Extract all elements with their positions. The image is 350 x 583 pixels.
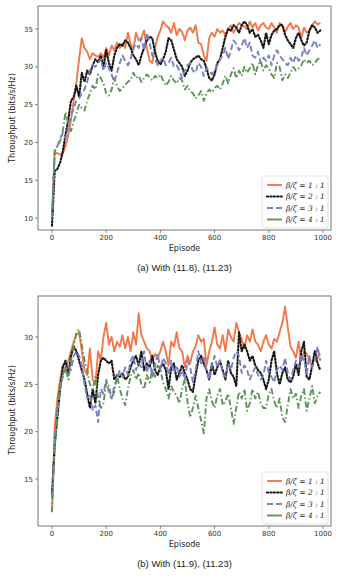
- x-tick-label: 600: [208, 234, 221, 242]
- x-tick-label: 600: [208, 530, 221, 538]
- y-axis-label: Throughput (bits/s/Hz): [8, 73, 17, 164]
- x-axis-label: Episode: [169, 540, 200, 549]
- legend-label: β/ζ = 1 : 1: [285, 477, 325, 486]
- y-tick-label: 30: [24, 63, 33, 71]
- legend: β/ζ = 1 : 1β/ζ = 2 : 1β/ζ = 3 : 1β/ζ = 4…: [262, 176, 328, 228]
- y-tick-label: 25: [24, 101, 33, 109]
- legend-label: β/ζ = 2 : 1: [285, 192, 325, 201]
- y-tick-label: 10: [24, 215, 33, 223]
- y-tick-label: 20: [24, 139, 33, 147]
- x-tick-label: 0: [50, 530, 54, 538]
- y-tick-label: 15: [24, 177, 33, 185]
- series-line-2: [52, 332, 320, 493]
- figure-caption: (a) With (11.8), (11.23): [137, 262, 232, 273]
- legend-label: β/ζ = 3 : 1: [285, 204, 325, 213]
- legend: β/ζ = 1 : 1β/ζ = 2 : 1β/ζ = 3 : 1β/ζ = 4…: [262, 472, 328, 524]
- chart-b: 1520253002004006008001000EpisodeThroughp…: [8, 296, 332, 569]
- legend-label: β/ζ = 4 : 1: [285, 511, 325, 520]
- legend-label: β/ζ = 1 : 1: [285, 181, 325, 190]
- y-tick-label: 20: [24, 428, 33, 436]
- y-tick-label: 30: [24, 334, 33, 342]
- figure-caption: (b) With (11.9), (11.23): [137, 558, 232, 569]
- x-tick-label: 400: [154, 234, 167, 242]
- legend-label: β/ζ = 3 : 1: [285, 500, 325, 509]
- chart-a: 10152025303502004006008001000EpisodeThro…: [8, 6, 332, 273]
- figure: 10152025303502004006008001000EpisodeThro…: [0, 0, 350, 583]
- y-tick-label: 15: [24, 476, 33, 484]
- x-tick-label: 200: [100, 530, 113, 538]
- x-tick-label: 1000: [314, 530, 332, 538]
- x-tick-label: 800: [262, 530, 275, 538]
- x-tick-label: 1000: [314, 234, 332, 242]
- y-tick-label: 35: [24, 26, 33, 34]
- legend-label: β/ζ = 2 : 1: [285, 488, 325, 497]
- legend-label: β/ζ = 4 : 1: [285, 215, 325, 224]
- x-tick-label: 0: [50, 234, 54, 242]
- x-axis-label: Episode: [169, 244, 200, 253]
- y-tick-label: 25: [24, 381, 33, 389]
- y-axis-label: Throughput (bits/s/Hz): [8, 365, 17, 456]
- x-tick-label: 200: [100, 234, 113, 242]
- x-tick-label: 400: [154, 530, 167, 538]
- x-tick-label: 800: [262, 234, 275, 242]
